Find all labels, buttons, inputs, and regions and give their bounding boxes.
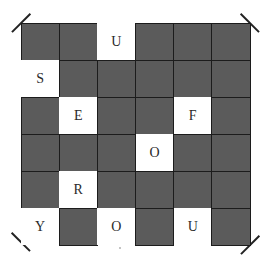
black-cell[interactable] bbox=[135, 23, 174, 61]
black-cell[interactable] bbox=[173, 23, 212, 61]
black-cell[interactable] bbox=[97, 60, 136, 98]
letter-cell[interactable]: U bbox=[174, 208, 212, 245]
black-cell[interactable] bbox=[21, 171, 60, 209]
letter-cell[interactable]: S bbox=[21, 60, 59, 97]
black-cell[interactable] bbox=[97, 134, 136, 172]
black-cell[interactable] bbox=[97, 171, 136, 209]
black-cell[interactable] bbox=[135, 171, 174, 209]
grid-puzzle: USEFORYOU bbox=[0, 0, 271, 267]
black-cell[interactable] bbox=[173, 60, 212, 98]
black-cell[interactable] bbox=[59, 23, 98, 61]
black-cell[interactable] bbox=[21, 134, 60, 172]
black-cell[interactable] bbox=[211, 134, 250, 172]
black-cell[interactable] bbox=[59, 208, 98, 246]
black-cell[interactable] bbox=[211, 23, 250, 61]
black-cell[interactable] bbox=[135, 97, 174, 135]
black-cell[interactable] bbox=[59, 134, 98, 172]
black-cell[interactable] bbox=[21, 97, 60, 135]
letter-cell[interactable]: Y bbox=[21, 208, 59, 245]
black-cell[interactable] bbox=[135, 60, 174, 98]
smudge-dot bbox=[119, 247, 121, 249]
black-cell[interactable] bbox=[173, 171, 212, 209]
letter-cell[interactable]: O bbox=[97, 208, 135, 245]
black-cell[interactable] bbox=[59, 60, 98, 98]
letter-cell[interactable]: U bbox=[97, 23, 135, 60]
black-cell[interactable] bbox=[211, 208, 250, 246]
black-cell[interactable] bbox=[97, 97, 136, 135]
puzzle-grid: USEFORYOU bbox=[21, 23, 250, 245]
letter-cell[interactable]: R bbox=[59, 171, 97, 208]
letter-cell[interactable]: F bbox=[174, 97, 212, 134]
black-cell[interactable] bbox=[211, 171, 250, 209]
letter-cell[interactable]: E bbox=[59, 97, 97, 134]
black-cell[interactable] bbox=[211, 97, 250, 135]
black-cell[interactable] bbox=[211, 60, 250, 98]
black-cell[interactable] bbox=[135, 208, 174, 246]
black-cell[interactable] bbox=[21, 23, 60, 61]
black-cell[interactable] bbox=[173, 134, 212, 172]
letter-cell[interactable]: O bbox=[136, 134, 174, 171]
